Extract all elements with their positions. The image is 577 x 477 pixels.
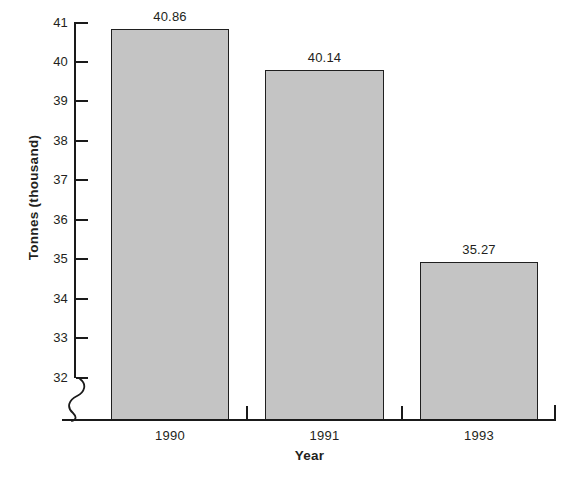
bar-1990 — [111, 29, 229, 420]
y-tick-39 — [76, 100, 88, 102]
y-tick-label-36: 36 — [44, 212, 68, 227]
y-tick-36 — [76, 219, 88, 221]
y-axis-line — [74, 22, 76, 378]
y-tick-label-39: 39 — [44, 93, 68, 108]
y-tick-label-40: 40 — [44, 54, 68, 69]
bar-1993 — [420, 262, 538, 420]
x-category-label-1991: 1991 — [265, 428, 384, 443]
x-tick-1 — [246, 406, 248, 420]
y-tick-label-33: 33 — [44, 330, 68, 345]
x-category-label-1990: 1990 — [111, 428, 229, 443]
y-tick-label-35: 35 — [44, 251, 68, 266]
x-axis-title: Year — [295, 448, 325, 463]
y-tick-41 — [76, 22, 88, 24]
x-axis-line — [62, 419, 556, 421]
y-tick-34 — [76, 298, 88, 300]
x-tick-3 — [554, 405, 556, 420]
bar-1991 — [265, 70, 384, 420]
bar-value-1993: 35.27 — [420, 242, 538, 257]
axis-break-icon — [60, 378, 94, 422]
y-tick-label-37: 37 — [44, 172, 68, 187]
x-category-label-1993: 1993 — [420, 428, 538, 443]
x-axis-title-wrap: Year — [0, 448, 577, 463]
x-tick-2 — [401, 406, 403, 420]
y-tick-40 — [76, 61, 88, 63]
y-tick-label-41: 41 — [44, 15, 68, 30]
y-tick-38 — [76, 140, 88, 142]
bar-chart: Tonnes (thousand) 41 40 39 38 37 36 35 3… — [0, 0, 577, 477]
y-tick-33 — [76, 337, 88, 339]
y-tick-35 — [76, 258, 88, 260]
bar-value-1990: 40.86 — [111, 9, 229, 24]
y-tick-label-34: 34 — [44, 291, 68, 306]
bar-value-1991: 40.14 — [265, 50, 384, 65]
y-tick-37 — [76, 179, 88, 181]
y-tick-label-38: 38 — [44, 133, 68, 148]
